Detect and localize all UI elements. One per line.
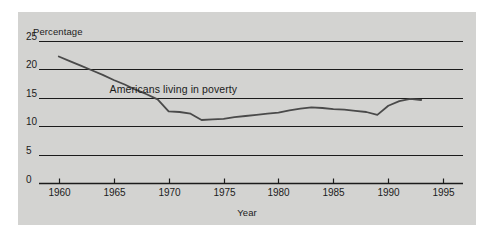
gridline-group xyxy=(39,42,463,156)
x-tick-label: 1960 xyxy=(48,187,70,198)
y-tick-label: 10 xyxy=(26,116,37,127)
xtick-mark-group xyxy=(60,179,444,184)
x-tick-label: 1980 xyxy=(267,187,289,198)
y-tick-label: 15 xyxy=(26,88,37,99)
x-axis-title: Year xyxy=(0,207,494,218)
y-tick-label: 0 xyxy=(26,174,32,185)
poverty-line-chart-figure: Percentage Year Americans living in pove… xyxy=(0,0,494,242)
y-axis-title: Percentage xyxy=(33,26,83,37)
x-tick-label: 1970 xyxy=(158,187,180,198)
x-tick-label: 1975 xyxy=(213,187,235,198)
x-tick-label: 1985 xyxy=(322,187,344,198)
y-tick-label: 25 xyxy=(26,31,37,42)
y-tick-label: 20 xyxy=(26,59,37,70)
y-tick-label: 5 xyxy=(26,145,32,156)
x-tick-label: 1995 xyxy=(432,187,454,198)
x-tick-label: 1990 xyxy=(377,187,399,198)
series-inline-annotation: Americans living in poverty xyxy=(110,83,238,95)
x-tick-label: 1965 xyxy=(103,187,125,198)
